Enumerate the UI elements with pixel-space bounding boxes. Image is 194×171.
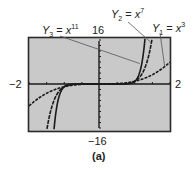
label-y2: Y2 = x7 — [111, 8, 144, 20]
label-y3: Y3 = x11 — [42, 24, 79, 36]
figure-caption: (a) — [92, 150, 105, 162]
xmax-label: 2 — [175, 78, 181, 90]
ymax-label: 16 — [92, 24, 104, 36]
xmin-label: −2 — [9, 78, 22, 90]
label-y1: Y1 = x3 — [152, 22, 185, 34]
ymin-label: −16 — [88, 135, 107, 147]
